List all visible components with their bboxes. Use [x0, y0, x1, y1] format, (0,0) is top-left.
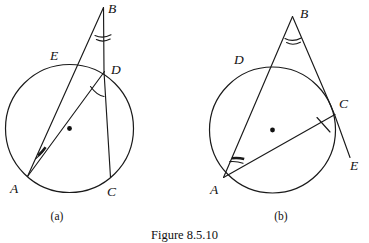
angle-mark-a-arc-inner-b — [230, 161, 243, 163]
angle-mark-b-arc-outer-a — [95, 35, 111, 37]
point-label-b-C: C — [339, 96, 349, 111]
point-label-b-D: D — [233, 52, 244, 67]
point-label-a-B: B — [108, 1, 116, 16]
line-b-A-to-C — [224, 115, 336, 178]
panel-a-group: B E D A C (a) — [6, 1, 134, 223]
figure-page: B E D A C (a) — [0, 0, 369, 243]
line-b-A-to-B — [224, 17, 293, 178]
line-a-A-to-B — [28, 8, 104, 177]
point-label-a-D: D — [110, 62, 121, 77]
angle-mark-a-arc-outer-b — [232, 158, 244, 159]
panel-b-group: B D C E A (b) — [209, 6, 359, 223]
geometry-figure-canvas: B E D A C (a) — [0, 0, 369, 243]
angle-mark-b-arc-inner-b — [287, 42, 301, 44]
panel-sublabel-a: (a) — [51, 210, 64, 223]
point-label-a-C: C — [107, 184, 117, 199]
point-label-b-B: B — [300, 6, 308, 21]
center-dot-a — [67, 126, 72, 131]
angle-mark-c-arc-b — [317, 118, 330, 133]
line-a-A-to-D — [28, 72, 105, 177]
point-label-a-E: E — [49, 48, 59, 63]
figure-caption: Figure 8.5.10 — [151, 228, 218, 242]
panel-sublabel-b: (b) — [274, 210, 288, 223]
angle-mark-b-arc-outer-b — [285, 38, 301, 40]
center-dot-b — [270, 128, 275, 133]
point-label-a-A: A — [9, 181, 19, 196]
point-label-b-A: A — [209, 182, 219, 197]
point-label-b-E: E — [349, 158, 359, 173]
line-a-B-through-D-to-C — [104, 8, 111, 178]
